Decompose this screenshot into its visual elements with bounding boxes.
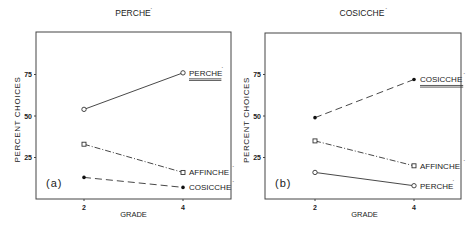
plot-frame [265,33,461,199]
series-label: PERCHE [420,182,453,191]
series-label: AFFINCHE [189,168,229,177]
y-tick-label: 25 [253,154,261,161]
data-point [82,107,86,111]
y-tick-label: 25 [24,154,32,161]
x-tick-label: 4 [181,204,185,211]
accent-mark: ` [232,165,234,171]
x-tick-label: 4 [412,204,416,211]
series-label: COSICCHE [189,183,231,192]
data-point [313,116,317,120]
panel-label: (a) [46,177,62,189]
panel-label: (b) [275,177,291,189]
chart-panel-b: COSICCHE`255075PERCENT CHOICES24GRADE(b)… [242,7,465,219]
series-label: COSICCHE [420,75,462,84]
accent-mark: ` [463,72,465,78]
accent-mark: ´ [150,7,152,13]
data-point [82,176,86,180]
data-point [412,78,416,82]
chart-title: PERCHE [115,8,151,18]
series-affinche: AFFINCHE` [82,142,234,177]
y-tick-label: 50 [253,113,261,120]
y-axis-label: PERCENT CHOICES [13,77,22,163]
x-tick-label: 2 [313,204,317,211]
series-perche: PERCHE´ [313,170,455,190]
accent-mark: ´ [221,66,223,72]
series-cosicche: COSICCHE` [313,72,465,119]
data-point [412,164,416,168]
data-point [181,170,185,174]
y-tick-label: 75 [24,71,32,78]
data-point [313,170,317,174]
series-label: PERCHE [189,69,222,78]
series-label: AFFINCHE [420,162,460,171]
y-tick-label: 75 [253,71,261,78]
accent-mark: ` [385,7,387,13]
accent-mark: ` [232,180,234,186]
series-perche: PERCHE´ [82,66,224,112]
data-point [181,71,185,75]
x-tick-label: 2 [82,204,86,211]
y-axis-label: PERCENT CHOICES [242,77,251,163]
chart-panel-a: PERCHE´255075PERCENT CHOICES24GRADE(a)PE… [13,7,234,219]
data-point [181,186,185,190]
chart-title: COSICCHE [340,8,385,18]
x-axis-label: GRADE [120,210,147,219]
y-tick-label: 50 [24,113,32,120]
figure: PERCHE´255075PERCENT CHOICES24GRADE(a)PE… [0,0,474,231]
series-affinche: AFFINCHE` [313,139,465,171]
x-axis-label: GRADE [351,210,378,219]
data-point [82,142,86,146]
data-point [313,139,317,143]
data-point [412,184,416,188]
series-cosicche: COSICCHE` [82,176,234,193]
accent-mark: ´ [452,179,454,185]
accent-mark: ` [463,159,465,165]
